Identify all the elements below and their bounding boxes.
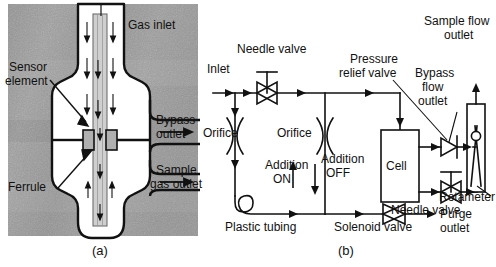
label-sample-flow-outlet-line1: Sample flow bbox=[424, 14, 489, 28]
label-pressure-relief-valve-line1: Pressure bbox=[350, 52, 398, 66]
label-sensor-element-line2: element bbox=[5, 74, 48, 88]
label-sample-gas-outlet-line2: gas outlet bbox=[150, 177, 202, 191]
sensor-element-capillary bbox=[93, 14, 107, 226]
caption-b: (b) bbox=[338, 243, 354, 258]
label-orifice-mid: Orifice bbox=[277, 126, 312, 140]
label-sample-flow-outlet-line2: outlet bbox=[444, 28, 473, 42]
label-addition-off-line2: OFF bbox=[326, 166, 350, 180]
label-rotameter: Rotameter bbox=[439, 190, 495, 204]
label-plastic-tubing: Plastic tubing bbox=[225, 220, 296, 234]
panel-a-sensor-probe: Gas inlet Sensor element Bypass outlet S… bbox=[0, 0, 205, 267]
label-addition-off-line1: Addition bbox=[321, 152, 364, 166]
panel-b-flow-schematic: Inlet Needle valve Orifice Orifice Addit… bbox=[205, 0, 496, 267]
label-orifice-left: Orifice bbox=[203, 126, 238, 140]
label-addition-on-line1: Addition bbox=[265, 158, 308, 172]
label-solenoid-valve: Solenoid valve bbox=[334, 220, 412, 234]
label-inlet: Inlet bbox=[207, 62, 230, 76]
label-pressure-relief-valve-line2: relief valve bbox=[339, 66, 396, 80]
cell-outlet-lines bbox=[419, 147, 441, 192]
label-needle-valve-top: Needle valve bbox=[237, 42, 306, 56]
label-addition-on-line2: ON bbox=[273, 172, 291, 186]
label-sensor-element-line1: Sensor bbox=[9, 60, 47, 74]
label-sample-gas-outlet-line1: Sample bbox=[156, 163, 197, 177]
needle-valve-top-symbol bbox=[257, 72, 277, 104]
label-ferrule: Ferrule bbox=[8, 180, 46, 194]
figure-root: Gas inlet Sensor element Bypass outlet S… bbox=[0, 0, 496, 267]
label-cell: Cell bbox=[386, 159, 407, 173]
label-gas-inlet: Gas inlet bbox=[128, 18, 175, 32]
label-needle-valve-bottom: Needle valve bbox=[391, 203, 460, 217]
plastic-tubing-line bbox=[235, 196, 325, 214]
label-bypass-flow-outlet-line1: Bypass bbox=[415, 66, 454, 80]
rotameter-symbol bbox=[467, 86, 485, 192]
caption-a: (a) bbox=[92, 243, 108, 258]
label-bypass-outlet-line1: Bypass bbox=[156, 113, 195, 127]
label-bypass-flow-outlet-line3: outlet bbox=[418, 94, 447, 108]
label-bypass-outlet-line2: outlet bbox=[156, 127, 185, 141]
label-bypass-flow-outlet-line2: flow bbox=[422, 80, 443, 94]
